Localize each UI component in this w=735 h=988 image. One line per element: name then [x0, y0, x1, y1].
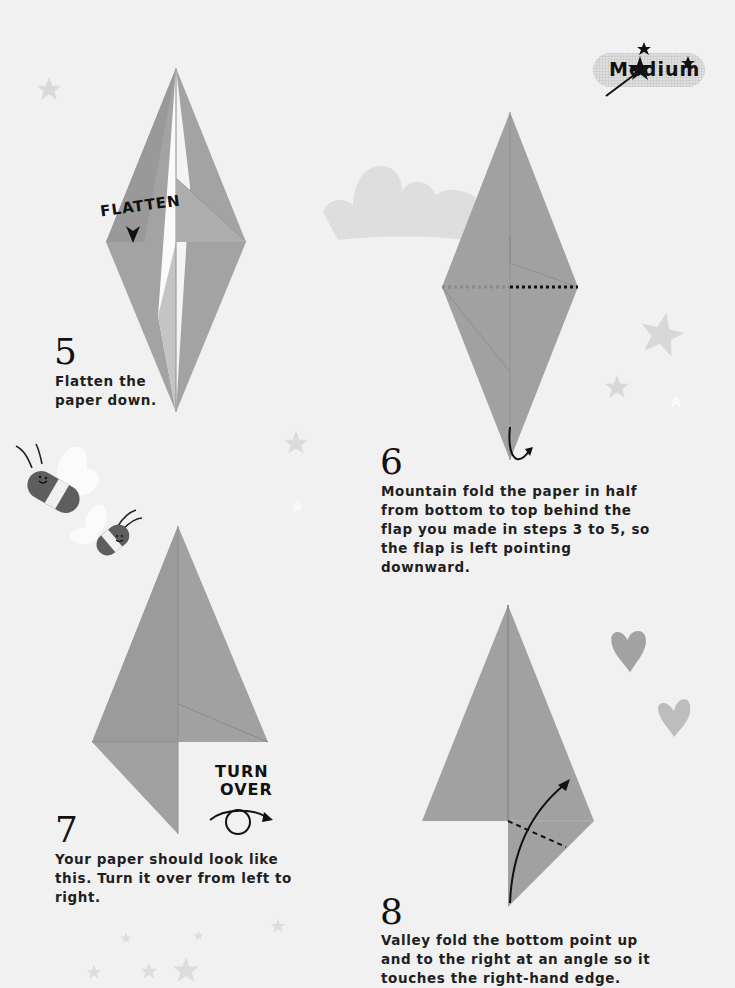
step-7-text: Your paper should look like this. Turn i… — [55, 850, 315, 907]
turn-over-callout-line2: OVER — [220, 780, 273, 799]
star-icon — [86, 964, 102, 980]
step-6-number: 6 — [380, 444, 403, 480]
magic-wand-icon — [604, 42, 696, 98]
step-6-diagram — [440, 110, 580, 470]
turn-over-icon — [208, 806, 274, 836]
star-icon — [120, 932, 132, 944]
star-icon — [604, 374, 630, 400]
step-6-text: Mountain fold the paper in half from bot… — [381, 482, 666, 577]
star-icon — [193, 930, 204, 941]
star-icon — [668, 393, 684, 409]
curved-arrow-icon — [505, 425, 535, 465]
step-7-number: 7 — [55, 812, 78, 848]
star-icon — [283, 430, 309, 456]
heart-icon — [654, 695, 694, 739]
star-icon — [36, 76, 62, 102]
star-icon — [270, 918, 286, 934]
down-arrow-icon — [125, 224, 141, 244]
star-icon — [290, 500, 304, 514]
step-5-number: 5 — [54, 334, 77, 370]
star-icon — [172, 956, 200, 984]
step-5-diagram — [100, 66, 250, 416]
step-5-text: Flatten the paper down. — [55, 372, 160, 410]
step-8-text: Valley fold the bottom point up and to t… — [381, 931, 671, 988]
turn-over-callout-line1: TURN — [215, 762, 269, 781]
step-8-number: 8 — [380, 894, 403, 930]
star-icon — [638, 310, 686, 358]
star-icon — [140, 962, 158, 980]
heart-icon — [609, 626, 651, 674]
step-8-diagram — [420, 603, 600, 908]
